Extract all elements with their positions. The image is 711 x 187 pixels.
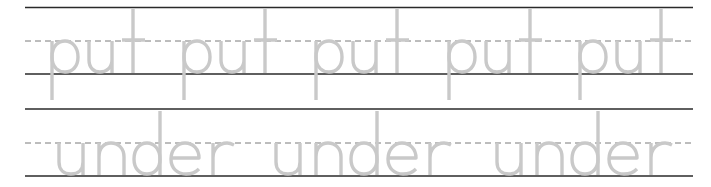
- trace-word-under: [276, 111, 451, 175]
- trace-word-put: [184, 9, 277, 100]
- row-1-trace-words: [52, 9, 673, 100]
- trace-word-put: [316, 9, 409, 100]
- handwriting-worksheet: put put put put put under under under: [0, 0, 711, 187]
- trace-word-put: [52, 9, 145, 100]
- row-2-trace-words: [59, 111, 672, 175]
- worksheet-canvas: [0, 0, 711, 187]
- trace-word-put: [449, 9, 542, 100]
- trace-word-put: [580, 9, 673, 100]
